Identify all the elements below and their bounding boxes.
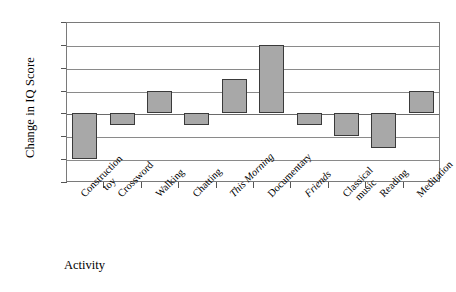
bar: [409, 91, 434, 114]
x-tick-mark: [403, 182, 404, 188]
x-tick-mark: [178, 182, 179, 188]
bar-chart: Change in IQ Score 86420-2-4-6 Construct…: [0, 0, 456, 292]
bar: [110, 113, 135, 124]
x-tick-mark: [216, 182, 217, 188]
y-axis-title: Change in IQ Score: [23, 8, 38, 208]
bar: [147, 91, 172, 114]
x-axis-title: Activity: [64, 258, 105, 273]
x-tick-mark: [141, 182, 142, 188]
bar: [222, 79, 247, 113]
y-tick-mark--6: [61, 182, 67, 183]
x-tick-mark: [253, 182, 254, 188]
bar: [259, 45, 284, 114]
x-tick-mark: [365, 182, 366, 188]
bar-series: [66, 22, 440, 182]
x-tick-mark: [328, 182, 329, 188]
bar: [371, 113, 396, 147]
bar: [297, 113, 322, 124]
bar: [334, 113, 359, 136]
bar: [184, 113, 209, 124]
x-tick-mark: [103, 182, 104, 188]
bar: [72, 113, 97, 159]
x-tick-mark: [290, 182, 291, 188]
